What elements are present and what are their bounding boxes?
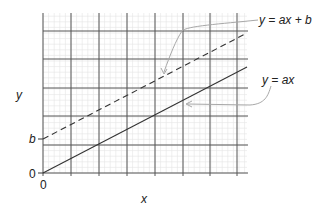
y-origin-label: 0 <box>29 167 36 181</box>
linear-function-diagram: y = ax + b y = ax y x b 0 0 <box>0 0 316 212</box>
x-origin-label: 0 <box>40 178 47 192</box>
x-axis-label: x <box>140 192 148 206</box>
minor-grid <box>43 13 247 173</box>
label-line-y-ax-plus-b: y = ax + b <box>258 13 312 27</box>
y-axis-label: y <box>15 88 23 102</box>
label-line-y-ax: y = ax <box>261 73 295 87</box>
y-intercept-label: b <box>29 132 36 146</box>
